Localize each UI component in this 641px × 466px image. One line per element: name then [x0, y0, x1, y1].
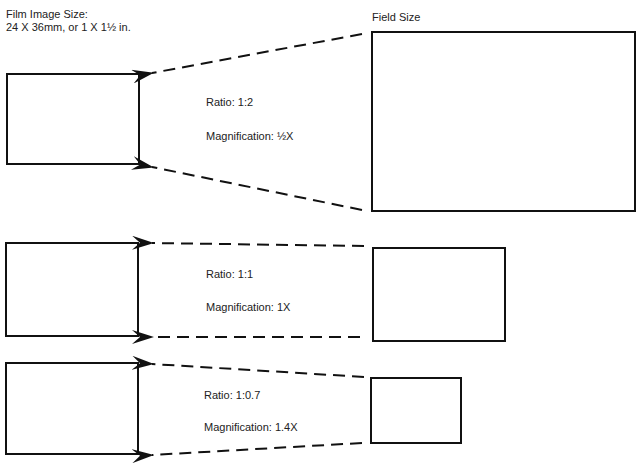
arrow-row3-bottom — [152, 443, 362, 455]
row2-ratio: Ratio: 1:1 — [206, 268, 253, 281]
arrow-row3-top — [152, 364, 364, 377]
row1-magnification: Magnification: ½X — [206, 130, 293, 143]
row3-magnification: Magnification: 1.4X — [204, 421, 298, 434]
arrow-row1-top — [152, 34, 362, 73]
arrow-row1-bottom — [152, 167, 362, 210]
projection-arrows — [0, 0, 641, 466]
row3-ratio: Ratio: 1:0.7 — [204, 389, 260, 402]
row1-ratio: Ratio: 1:2 — [206, 96, 253, 109]
row2-magnification: Magnification: 1X — [206, 301, 290, 314]
arrow-row2-top — [152, 243, 364, 246]
